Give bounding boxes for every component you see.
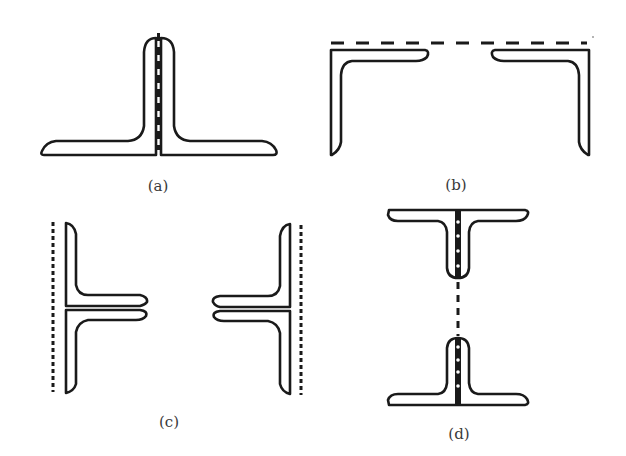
panel-c-left-upper-angle xyxy=(66,223,147,306)
panel-b: (b) xyxy=(331,43,589,194)
figure-svg: (a) (b) (c) xyxy=(0,0,626,456)
panel-c-right-lower-angle xyxy=(214,311,290,394)
panel-c-right-upper-angle xyxy=(213,224,290,307)
panel-b-right-angle xyxy=(492,50,589,155)
panel-b-label: (b) xyxy=(445,176,466,194)
panel-a-label: (a) xyxy=(148,177,169,195)
panel-c-left-lower-angle xyxy=(66,310,146,393)
panel-d: (d) xyxy=(388,210,528,443)
panel-a-right-angle xyxy=(161,38,277,155)
panel-b-left-angle xyxy=(331,50,428,155)
figure-canvas: (a) (b) (c) xyxy=(0,0,626,456)
panel-c: (c) xyxy=(53,222,301,431)
stray-dot xyxy=(592,36,594,38)
panel-a-left-angle xyxy=(41,38,156,155)
panel-c-label: (c) xyxy=(159,413,179,431)
panel-a: (a) xyxy=(41,33,276,195)
panel-d-label: (d) xyxy=(448,425,469,443)
